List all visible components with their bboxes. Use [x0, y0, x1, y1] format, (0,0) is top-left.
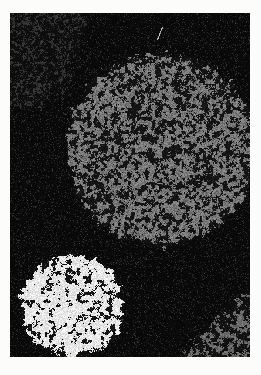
scanned-page [0, 0, 261, 375]
micrograph-frame [10, 13, 250, 357]
micrograph-canvas [10, 13, 250, 357]
